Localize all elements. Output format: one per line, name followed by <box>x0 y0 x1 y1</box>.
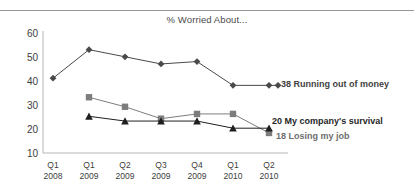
data-point-square <box>122 104 128 110</box>
y-tick-60: 60 <box>12 28 38 39</box>
series-end-value: 20 <box>272 116 282 126</box>
data-point-square <box>86 94 92 100</box>
x-tick-2: Q2 2009 <box>108 160 142 182</box>
x-tick-quarter: Q2 <box>252 160 286 171</box>
x-tick-1: Q1 2009 <box>72 160 106 182</box>
data-point-square <box>230 111 236 117</box>
series-end-value: 18 <box>276 131 286 141</box>
series-label-losing-my-job: 18 Losing my job <box>276 131 350 141</box>
series-1 <box>86 94 272 136</box>
series-name: My company's survival <box>285 116 383 126</box>
data-point-diamond <box>230 82 237 89</box>
series-line <box>89 97 269 133</box>
x-tick-quarter: Q3 <box>144 160 178 171</box>
x-tick-4: Q4 2009 <box>180 160 214 182</box>
chart-container: % Worried About... 60 50 40 30 20 10 Q1 … <box>0 0 414 194</box>
series-label-my-companys-survival: 20 My company's survival <box>272 116 383 126</box>
x-tick-quarter: Q1 <box>36 160 70 171</box>
x-tick-quarter: Q1 <box>216 160 250 171</box>
series-0 <box>50 46 282 89</box>
x-tick-quarter: Q1 <box>72 160 106 171</box>
data-point-diamond <box>158 61 165 68</box>
series-layer <box>50 46 282 136</box>
y-tick-20: 20 <box>12 124 38 135</box>
y-tick-50: 50 <box>12 52 38 63</box>
series-label-running-out-of-money: 38 Running out of money <box>281 79 389 89</box>
x-tick-6: Q2 2010 <box>252 160 286 182</box>
x-tick-year: 2009 <box>108 171 142 182</box>
x-tick-year: 2009 <box>144 171 178 182</box>
series-line <box>89 116 269 128</box>
x-tick-3: Q3 2009 <box>144 160 178 182</box>
data-point-square <box>194 111 200 117</box>
series-end-value: 38 <box>281 79 291 89</box>
x-tick-quarter: Q2 <box>108 160 142 171</box>
series-2 <box>85 113 273 132</box>
series-name: Losing my job <box>289 131 350 141</box>
x-tick-year: 2009 <box>180 171 214 182</box>
x-tick-quarter: Q4 <box>180 160 214 171</box>
x-tick-year: 2010 <box>252 171 286 182</box>
y-tick-30: 30 <box>12 100 38 111</box>
x-tick-year: 2009 <box>72 171 106 182</box>
series-name: Running out of money <box>294 79 389 89</box>
x-tick-5: Q1 2010 <box>216 160 250 182</box>
data-point-diamond <box>122 53 129 60</box>
x-tick-year: 2008 <box>36 171 70 182</box>
y-tick-40: 40 <box>12 76 38 87</box>
x-tick-0: Q1 2008 <box>36 160 70 182</box>
y-tick-10: 10 <box>12 148 38 159</box>
data-point-diamond <box>266 82 273 89</box>
series-line <box>53 50 269 86</box>
axes <box>43 31 288 153</box>
x-tick-year: 2010 <box>216 171 250 182</box>
data-point-diamond <box>194 58 201 65</box>
